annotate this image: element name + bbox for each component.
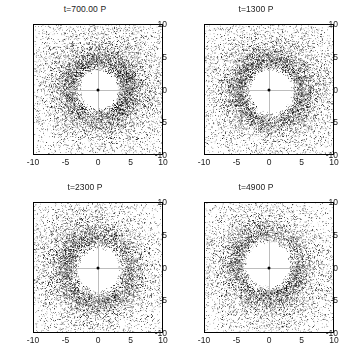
- x-tick-label: 10: [319, 335, 341, 345]
- panel-title: t=2300 P: [0, 182, 170, 192]
- x-tick-label: 0: [83, 335, 113, 345]
- x-tick-label: 10: [319, 157, 341, 167]
- x-tick-label: -5: [222, 335, 252, 345]
- axes-area: [204, 202, 334, 333]
- x-tick-label: -10: [189, 335, 219, 345]
- axes-area: [204, 24, 334, 155]
- panel-title: t=4900 P: [171, 182, 341, 192]
- x-tick-label: -10: [18, 335, 48, 345]
- center-star-marker: [268, 88, 271, 91]
- figure-container: t=700.00 P 10 5 0 -5 -10 -10 -5 0 5 10 t…: [0, 0, 341, 356]
- x-tick-label: -10: [189, 157, 219, 167]
- x-tick-label: -5: [222, 157, 252, 167]
- panel-title: t=1300 P: [171, 4, 341, 14]
- panel-title: t=700.00 P: [0, 4, 170, 14]
- center-star-marker: [97, 88, 100, 91]
- plot-panel-1: t=700.00 P 10 5 0 -5 -10 -10 -5 0 5 10: [0, 0, 170, 178]
- x-tick-label: 0: [254, 335, 284, 345]
- x-tick-label: 5: [116, 335, 146, 345]
- plot-panel-3: t=2300 P 10 5 0 -5 -10 -10 -5 0 5 10: [0, 178, 170, 356]
- center-star-marker: [268, 266, 271, 269]
- x-tick-label: -10: [18, 157, 48, 167]
- center-star-marker: [97, 266, 100, 269]
- x-tick-label: -5: [51, 157, 81, 167]
- plot-panel-4: t=4900 P 10 5 0 -5 -10 -10 -5 0 5 10: [171, 178, 341, 356]
- x-tick-label: 5: [116, 157, 146, 167]
- x-tick-label: 0: [254, 157, 284, 167]
- axes-area: [33, 24, 163, 155]
- x-tick-label: 0: [83, 157, 113, 167]
- x-tick-label: 5: [287, 157, 317, 167]
- x-tick-label: -5: [51, 335, 81, 345]
- x-tick-label: 5: [287, 335, 317, 345]
- axes-area: [33, 202, 163, 333]
- plot-panel-2: t=1300 P 10 5 0 -5 -10 -10 -5 0 5 10: [171, 0, 341, 178]
